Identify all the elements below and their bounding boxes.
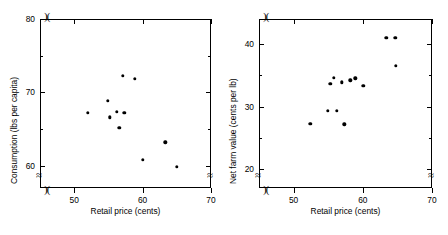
x-axis-tick-label: 50 bbox=[61, 196, 87, 204]
x-axis-break-left: )( bbox=[44, 184, 49, 195]
x-axis-tick bbox=[294, 188, 295, 193]
y-axis-tick-label: 60 bbox=[17, 162, 35, 170]
x-axis-tick bbox=[211, 188, 212, 193]
x-axis-tick bbox=[74, 188, 75, 193]
plot-frame-right bbox=[259, 19, 432, 188]
x-axis-tick-top bbox=[294, 19, 295, 24]
y-axis-tick-label: 20 bbox=[236, 165, 254, 173]
x-axis-tick-label: 60 bbox=[130, 196, 156, 204]
x-axis-title-left: Retail price (cents) bbox=[91, 207, 161, 215]
y-axis-break-mark: ≈ bbox=[36, 170, 42, 181]
y-axis-tick bbox=[427, 44, 432, 45]
top-axis-break-left: )( bbox=[44, 11, 49, 22]
x-axis-tick-top bbox=[143, 19, 144, 24]
y-axis-tick bbox=[429, 138, 432, 139]
y-axis-tick bbox=[40, 56, 43, 57]
y-axis-tick bbox=[259, 138, 262, 139]
y-axis-break-mark: ≈ bbox=[207, 170, 213, 181]
y-axis-break-mark: ≈ bbox=[255, 170, 261, 181]
x-axis-tick-label: 50 bbox=[281, 196, 307, 204]
scatter-panel-consumption: ≈≈ 607080506070 Retail price (cents) Con… bbox=[0, 0, 224, 235]
y-axis-tick bbox=[206, 92, 211, 93]
x-axis-tick-label: 70 bbox=[419, 196, 445, 204]
x-axis-title-right: Retail price (cents) bbox=[311, 207, 381, 215]
y-axis-tick bbox=[40, 92, 45, 93]
x-axis-tick-top bbox=[74, 19, 75, 24]
y-axis-break-mark: ≈ bbox=[428, 170, 434, 181]
x-axis-tick bbox=[432, 188, 433, 193]
y-axis-tick-label: 70 bbox=[17, 88, 35, 96]
y-axis-tick-label: 80 bbox=[17, 15, 35, 23]
x-axis-tick bbox=[363, 188, 364, 193]
y-axis-tick bbox=[40, 129, 43, 130]
x-axis-tick-top bbox=[432, 19, 433, 24]
y-axis-tick bbox=[206, 166, 211, 167]
scatter-panel-farmvalue: ≈≈ 203040506070 Retail price (cents) Net… bbox=[224, 0, 448, 235]
y-axis-tick bbox=[427, 107, 432, 108]
x-axis-tick-label: 70 bbox=[198, 196, 224, 204]
y-axis-tick-label: 30 bbox=[236, 102, 254, 110]
y-axis-tick bbox=[259, 75, 262, 76]
y-axis-tick bbox=[259, 107, 264, 108]
y-axis-tick bbox=[208, 56, 211, 57]
y-axis-title-right: Net farm value (cents per lb) bbox=[229, 78, 237, 184]
x-axis-tick bbox=[143, 188, 144, 193]
figure-root: ≈≈ 607080506070 Retail price (cents) Con… bbox=[0, 0, 448, 235]
plot-frame-left bbox=[40, 19, 211, 188]
x-axis-tick-top bbox=[211, 19, 212, 24]
y-axis-title-left: Consumption (lbs per capita) bbox=[10, 77, 18, 184]
y-axis-tick bbox=[429, 75, 432, 76]
x-axis-tick-label: 60 bbox=[350, 196, 376, 204]
top-axis-break-right: )( bbox=[263, 11, 268, 22]
x-axis-break-right: )( bbox=[263, 184, 268, 195]
x-axis-tick-top bbox=[363, 19, 364, 24]
y-axis-tick bbox=[259, 44, 264, 45]
y-axis-tick-label: 40 bbox=[236, 40, 254, 48]
y-axis-tick bbox=[40, 166, 45, 167]
y-axis-tick bbox=[208, 129, 211, 130]
